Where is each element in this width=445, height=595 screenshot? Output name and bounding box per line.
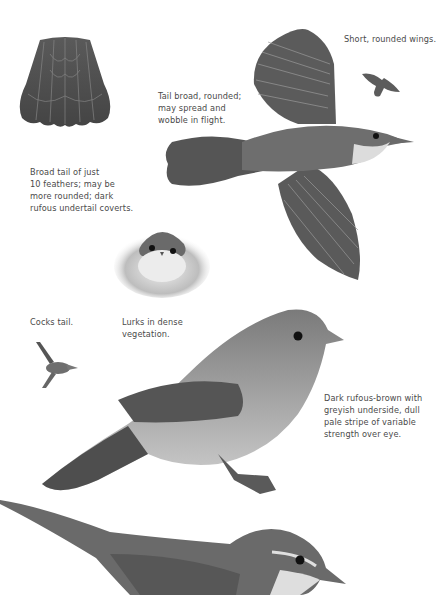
perched-bird-illustration [38,304,350,500]
caption-short-rounded-wings: Short, rounded wings. [344,33,436,45]
caption-tail-in-flight: Tail broad, rounded; may spread and wobb… [158,90,241,126]
tail-fan-illustration [14,34,116,128]
small-flight-silhouette-icon [360,70,402,100]
caption-lurks: Lurks in dense vegetation. [122,316,183,340]
caption-tail-feathers: Broad tail of just 10 feathers; may be m… [30,166,133,214]
front-facing-bird-illustration [112,218,212,300]
lower-bird-illustration [0,494,350,595]
caption-plumage: Dark rufous-brown with greyish underside… [324,392,422,440]
caption-cocks-tail: Cocks tail. [30,316,73,328]
